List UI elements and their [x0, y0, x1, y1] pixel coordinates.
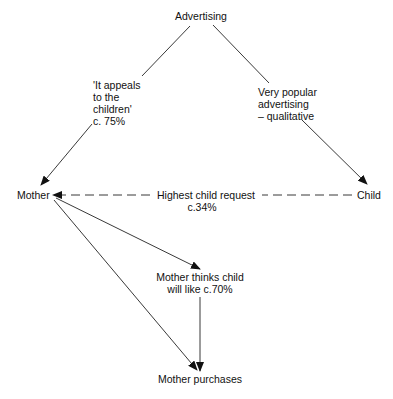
- edge-advertising-to-child-upper: [213, 25, 269, 83]
- node-advertising: Advertising: [171, 10, 231, 22]
- label-appeals-line: c. 75%: [93, 115, 141, 127]
- label-popular-line: advertising: [258, 98, 317, 110]
- label-request: Highest child request: [150, 189, 262, 201]
- node-mother-thinks-line: will like c.70%: [148, 283, 252, 295]
- node-mother: Mother: [17, 189, 50, 201]
- edge-advertising-to-mother-lower: [41, 124, 92, 185]
- node-mother-thinks-line: Mother thinks child: [148, 271, 252, 283]
- label-popular-line: Very popular: [258, 86, 317, 98]
- node-mother-thinks: Mother thinks child will like c.70%: [148, 271, 252, 295]
- edge-mother-to-thinks: [56, 198, 200, 269]
- edge-advertising-to-mother-upper: [142, 26, 190, 76]
- edge-advertising-to-child-lower: [302, 120, 367, 184]
- label-request-pct: c.34%: [180, 201, 224, 213]
- node-mother-purchases: Mother purchases: [148, 373, 252, 385]
- label-appeals: 'It appeals to the children' c. 75%: [93, 79, 141, 127]
- node-child: Child: [357, 189, 381, 201]
- label-popular-line: – qualitative: [258, 110, 317, 122]
- label-appeals-line: to the: [93, 91, 141, 103]
- label-appeals-line: 'It appeals: [93, 79, 141, 91]
- label-popular: Very popular advertising – qualitative: [258, 86, 317, 122]
- label-appeals-line: children': [93, 103, 141, 115]
